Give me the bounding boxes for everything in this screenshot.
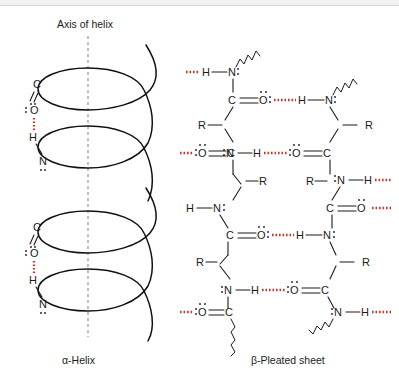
helix-lower-oxygen-label: O: [30, 247, 39, 259]
beta-atom-n-1: N: [228, 66, 236, 78]
beta-row-7: H N C O: [186, 199, 392, 228]
alpha-helix-group: Axis of helix C O: [25, 18, 156, 366]
beta-atom-h-3: H: [253, 147, 261, 159]
beta-sheet-caption: β-Pleated sheet: [251, 354, 325, 366]
beta-atom-o-4: O: [357, 202, 366, 214]
beta-atom-r-3: R: [259, 175, 267, 187]
beta-atom-h-6: H: [296, 229, 304, 241]
beta-row-6: R R: [233, 174, 327, 200]
beta-atom-h-4: H: [364, 174, 372, 186]
beta-row-4: N H O C O: [180, 144, 331, 174]
beta-sheet-group: H N C O: [180, 51, 392, 366]
beta-atom-c-6: C: [321, 284, 329, 296]
beta-atom-h-7: H: [251, 284, 259, 296]
beta-atom-o-6: O: [290, 284, 299, 296]
beta-row-2: C O H N: [228, 79, 357, 120]
helix-upper-oxygen-label: O: [30, 104, 39, 116]
helix-lower-nitrogen-label: N: [39, 298, 47, 310]
beta-atom-c-1: C: [228, 94, 236, 106]
beta-atom-n-5: N: [213, 202, 221, 214]
helix-lower-carbon-label: C: [33, 221, 41, 233]
beta-atom-h-8: H: [361, 306, 369, 318]
alpha-helix-caption: α-Helix: [62, 354, 96, 366]
beta-atom-c-3: C: [227, 147, 235, 159]
axis-of-helix-label: Axis of helix: [57, 18, 114, 30]
beta-row-8: C O H N: [226, 226, 336, 255]
helix-coil: [38, 45, 156, 341]
beta-atom-n-8: N: [334, 306, 342, 318]
beta-atom-r-6: R: [362, 256, 370, 268]
helix-peptide-upper: C O H N: [25, 78, 47, 171]
beta-row-5: N H: [332, 174, 392, 200]
beta-atom-r-1: R: [198, 119, 206, 131]
figure-canvas: Axis of helix C O: [0, 0, 399, 379]
beta-atom-o-2: O: [292, 147, 301, 159]
beta-atom-h-2: H: [298, 94, 306, 106]
beta-atom-r-4: R: [306, 175, 314, 187]
beta-atom-h-5: H: [186, 202, 194, 214]
helix-peptide-lower: C O H N: [25, 221, 47, 314]
beta-atom-h-1: H: [202, 66, 210, 78]
beta-atom-o-7: O: [198, 306, 207, 318]
beta-row-3: R R: [198, 107, 373, 142]
beta-atom-c-7: C: [225, 306, 233, 318]
beta-atom-n-2: N: [325, 94, 333, 106]
beta-atom-c-5: C: [226, 229, 234, 241]
beta-row-1: H N: [186, 51, 260, 92]
beta-atom-r-2: R: [365, 119, 373, 131]
beta-atom-n-7: N: [224, 284, 232, 296]
beta-atom-o-3: O: [198, 147, 207, 159]
helix-upper-carbon-label: C: [33, 78, 41, 90]
beta-row-10: N H O C: [221, 281, 334, 308]
helix-upper-nitrogen-label: N: [39, 155, 47, 167]
beta-atom-c-2: C: [323, 147, 331, 159]
beta-row-9: R R: [196, 255, 370, 279]
beta-atom-o-5: O: [257, 229, 266, 241]
beta-atom-r-5: R: [196, 256, 204, 268]
helix-upper-hydrogen-label: H: [29, 131, 37, 143]
top-divider: [0, 5, 399, 6]
beta-atom-o-1: O: [259, 94, 268, 106]
helix-lower-hydrogen-label: H: [29, 274, 37, 286]
protein-secondary-structure-figure: Axis of helix C O: [0, 0, 399, 379]
beta-row-11: O C N H: [180, 303, 392, 356]
beta-atom-n-4: N: [337, 174, 345, 186]
beta-atom-c-4: C: [326, 202, 334, 214]
beta-atom-n-6: N: [323, 229, 331, 241]
